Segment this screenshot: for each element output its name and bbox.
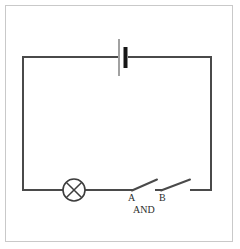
circuit-schematic [0, 0, 240, 249]
switch-a-label: A [128, 193, 135, 203]
circuit-diagram-canvas: A B AND [0, 0, 240, 249]
switch-b-blade[interactable] [161, 180, 190, 191]
gate-label: AND [133, 205, 155, 215]
battery-short-plate [124, 47, 128, 68]
switch-a-blade[interactable] [132, 180, 157, 191]
switch-b-label: B [159, 193, 166, 203]
